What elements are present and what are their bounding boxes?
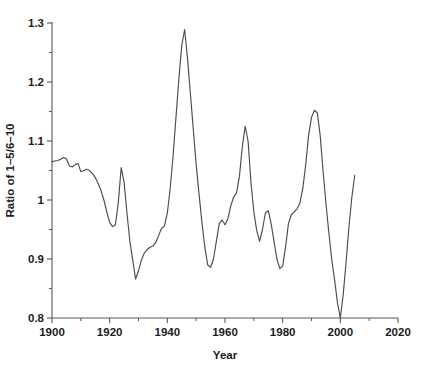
x-tick-label: 1900 (39, 326, 65, 338)
y-tick-label: 0.9 (28, 253, 44, 265)
y-tick-label: 1.1 (28, 135, 45, 147)
y-tick-label: 1.3 (28, 17, 44, 29)
axes-group (52, 22, 398, 318)
y-tick-label: 1 (38, 194, 45, 206)
x-tick-label: 1980 (270, 326, 296, 338)
x-axis-title: Year (213, 349, 238, 361)
x-tick-label: 2020 (385, 326, 411, 338)
x-tick-label: 2000 (328, 326, 354, 338)
x-tick-label: 1920 (97, 326, 123, 338)
chart-figure: 0.80.911.11.21.3190019201940196019802000… (0, 0, 428, 366)
line-chart-svg: 0.80.911.11.21.3190019201940196019802000… (0, 0, 428, 366)
y-tick-label: 1.2 (28, 76, 44, 88)
x-tick-label: 1940 (155, 326, 181, 338)
x-tick-label: 1960 (212, 326, 238, 338)
data-series-line (52, 29, 355, 318)
y-axis-title: Ratio of 1–5/6–10 (4, 124, 16, 218)
y-tick-label: 0.8 (28, 312, 45, 324)
tick-labels-group: 0.80.911.11.21.3190019201940196019802000… (28, 17, 411, 338)
ticks-group (47, 23, 398, 323)
